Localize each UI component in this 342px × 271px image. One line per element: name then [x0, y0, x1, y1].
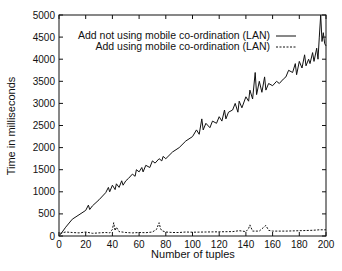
- y-tick-label: 4500: [33, 32, 56, 43]
- x-tick-label: 60: [134, 239, 146, 250]
- y-tick-label: 4000: [33, 54, 56, 65]
- x-tick-label: 200: [318, 239, 335, 250]
- y-tick-label: 500: [38, 208, 55, 219]
- y-axis-label: Time in milliseconds: [5, 76, 17, 175]
- y-tick-label: 3500: [33, 76, 56, 87]
- y-tick-label: 2000: [33, 142, 56, 153]
- x-tick-label: 0: [56, 239, 62, 250]
- y-tick-label: 2500: [33, 120, 56, 131]
- x-tick-label: 140: [238, 239, 255, 250]
- x-axis-label: Number of tuples: [151, 248, 235, 260]
- y-tick-label: 1500: [33, 164, 56, 175]
- legend-label-using: Add using mobile co-ordination (LAN): [95, 40, 270, 52]
- x-tick-label: 160: [264, 239, 281, 250]
- series-line-using-mobile: [60, 223, 326, 234]
- y-tick-label: 5000: [33, 10, 56, 21]
- y-tick-label: 1000: [33, 186, 56, 197]
- x-tick-label: 20: [80, 239, 92, 250]
- line-chart: 0500100015002000250030003500400045005000…: [0, 0, 342, 271]
- legend: Add not using mobile co-ordination (LAN)…: [78, 29, 296, 52]
- y-tick-label: 3000: [33, 98, 56, 109]
- y-tick-label: 0: [49, 231, 55, 242]
- x-tick-label: 180: [291, 239, 308, 250]
- x-tick-label: 40: [107, 239, 119, 250]
